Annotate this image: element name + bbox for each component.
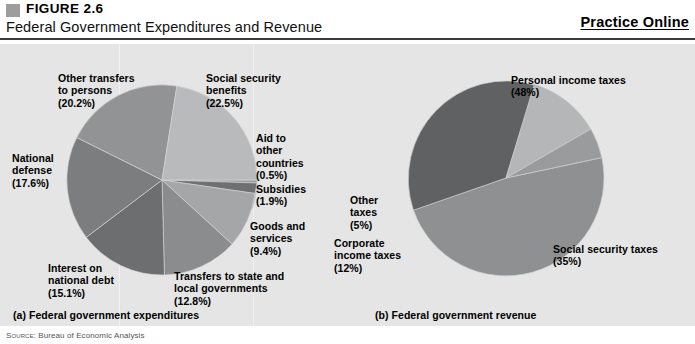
label-other-transfers-to-persons: Other transfers to persons (20.2%) bbox=[58, 72, 135, 109]
label-other-taxes: Other taxes (5%) bbox=[350, 194, 378, 231]
figure-marker-icon bbox=[6, 4, 20, 17]
caption-expenditures: (a) Federal government expenditures bbox=[13, 309, 199, 321]
figure-body: Other transfers to persons (20.2%) Natio… bbox=[0, 44, 695, 326]
pie-a-svg bbox=[62, 80, 262, 280]
source-label: Source: bbox=[6, 331, 36, 340]
label-social-security-benefits: Social security benefits (22.5%) bbox=[206, 72, 281, 109]
label-goods-and-services: Goods and services (9.4%) bbox=[250, 220, 305, 257]
label-corporate-income-taxes: Corporate income taxes (12%) bbox=[334, 237, 401, 274]
figure-header: FIGURE 2.6 Federal Government Expenditur… bbox=[0, 0, 695, 41]
label-social-security-taxes: Social security taxes (35%) bbox=[553, 243, 658, 268]
practice-online-link[interactable]: Practice Online bbox=[580, 14, 689, 30]
label-national-defense: National defense (17.6%) bbox=[12, 152, 54, 189]
label-personal-income-taxes: Personal income taxes (48%) bbox=[511, 74, 626, 99]
figure-title: Federal Government Expenditures and Reve… bbox=[6, 19, 322, 35]
header-divider bbox=[0, 38, 695, 40]
pie-chart-expenditures bbox=[62, 80, 262, 280]
source-text: Bureau of Economic Analysis bbox=[38, 331, 144, 340]
figure-number: FIGURE 2.6 bbox=[26, 1, 104, 16]
label-interest-on-national-debt: Interest on national debt (15.1%) bbox=[48, 262, 114, 299]
label-transfers-state-local: Transfers to state and local governments… bbox=[174, 270, 284, 307]
label-subsidies: Subsidies (1.9%) bbox=[256, 183, 306, 208]
label-aid-to-other-countries: Aid to other countries (0.5%) bbox=[256, 132, 304, 182]
source-line: Source: Bureau of Economic Analysis bbox=[6, 331, 406, 344]
caption-revenue: (b) Federal government revenue bbox=[375, 309, 536, 321]
